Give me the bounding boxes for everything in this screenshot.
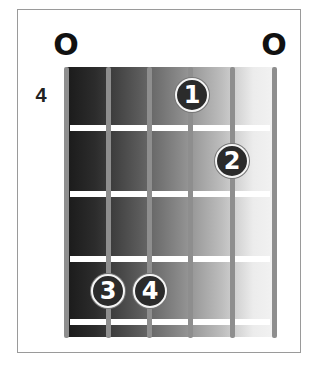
string-1 bbox=[64, 67, 69, 338]
finger-marker-2: 2 bbox=[215, 144, 249, 178]
fret-line-3 bbox=[70, 256, 270, 262]
open-string-marker-left: O bbox=[51, 30, 81, 60]
fret-line-1 bbox=[70, 125, 270, 131]
finger-marker-1: 1 bbox=[175, 78, 209, 112]
string-5 bbox=[230, 67, 235, 338]
start-fret-number: 4 bbox=[30, 84, 52, 107]
fret-line-4 bbox=[70, 319, 270, 325]
fret-line-2 bbox=[70, 191, 270, 197]
open-string-marker-right: O bbox=[259, 30, 289, 60]
string-6 bbox=[272, 67, 277, 338]
finger-marker-3: 3 bbox=[91, 274, 125, 308]
finger-marker-4: 4 bbox=[133, 274, 167, 308]
